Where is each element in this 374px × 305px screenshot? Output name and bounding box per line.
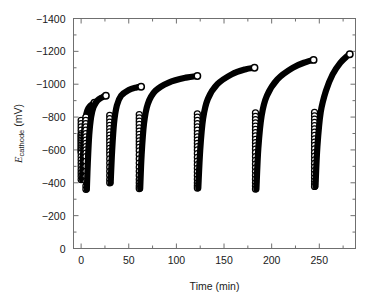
series-cycle-7: [312, 51, 353, 189]
y-tick-label: −400: [42, 177, 66, 189]
x-tick-label: 0: [78, 254, 84, 266]
series-curve: [87, 96, 106, 190]
series-curve: [140, 76, 197, 189]
x-axis-title: Time (min): [190, 280, 240, 292]
svg-text:Ecathode (mV): Ecathode (mV): [12, 104, 26, 164]
data-series-layer: [78, 51, 353, 192]
x-tick-label: 50: [123, 254, 135, 266]
y-tick-label: −800: [42, 111, 66, 123]
y-tick-label: −1200: [36, 45, 66, 57]
y-tick-label: −1400: [36, 13, 66, 25]
series-cycle-4: [136, 73, 200, 192]
y-axis-title: Ecathode (mV): [12, 104, 26, 164]
series-end-marker: [347, 51, 353, 57]
series-end-marker: [194, 73, 200, 79]
y-axis-units: (mV): [12, 104, 24, 130]
y-axis-subscript: cathode: [17, 130, 26, 157]
y-tick-label: 0: [60, 243, 66, 255]
y-tick-label: −1000: [36, 78, 66, 90]
y-tick-label: −600: [42, 144, 66, 156]
series-end-marker: [310, 57, 316, 63]
axis-labels-layer: 050100150200250−1400−1200−1000−800−600−4…: [12, 13, 328, 293]
x-tick-label: 150: [215, 254, 233, 266]
chart-canvas: 050100150200250−1400−1200−1000−800−600−4…: [0, 0, 374, 305]
series-end-marker: [138, 83, 144, 89]
series-cycle-5: [194, 65, 257, 191]
x-tick-label: 200: [263, 254, 281, 266]
series-curve: [198, 68, 254, 188]
y-tick-label: −200: [42, 210, 66, 222]
series-end-marker: [251, 65, 257, 71]
series-curve: [315, 54, 349, 186]
series-end-marker: [103, 93, 109, 99]
chart-figure: 050100150200250−1400−1200−1000−800−600−4…: [0, 0, 374, 305]
x-tick-label: 250: [311, 254, 329, 266]
series-curve: [256, 60, 313, 189]
x-tick-label: 100: [168, 254, 186, 266]
series-cycle-6: [252, 57, 316, 192]
